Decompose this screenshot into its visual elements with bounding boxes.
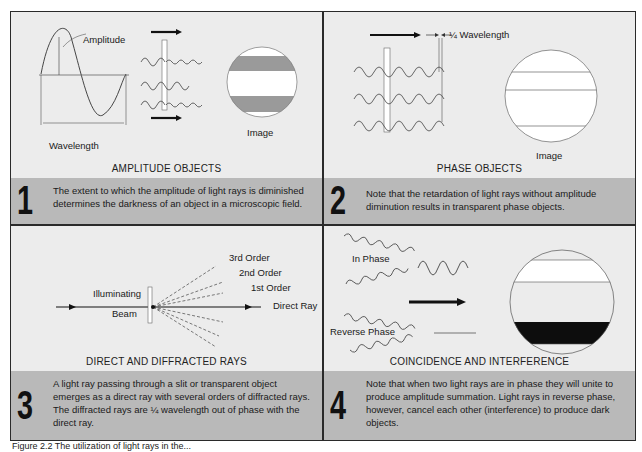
description-band: 1 The extent to which the amplitude of l… (11, 178, 322, 224)
panel-title: PHASE OBJECTS (324, 163, 635, 174)
description-band: 2 Note that the retardation of light ray… (324, 178, 635, 224)
panel-amplitude-objects: Amplitude Wavelength Image AMPLITUDE OBJ… (11, 12, 322, 224)
wavelength-label: Wavelength (49, 140, 99, 151)
reverse-phase-label: Reverse Phase (330, 326, 395, 337)
description-band: 3 A light ray passing through a slit or … (11, 371, 322, 440)
illuminating-label: Illuminating (93, 288, 141, 299)
panel-description: The extent to which the amplitude of lig… (53, 184, 314, 210)
figure-caption: Figure 2.2 The utilization of light rays… (12, 441, 191, 451)
description-band: 4 Note that when two light rays are in p… (324, 371, 635, 440)
panel-direct-diffracted-rays: 3rd Order 2nd Order 1st Order Direct Ray… (11, 226, 322, 440)
direct-ray-label: Direct Ray (273, 300, 317, 311)
image-label: Image (247, 127, 273, 138)
panel-title: AMPLITUDE OBJECTS (11, 163, 322, 174)
beam-label: Beam (112, 308, 137, 319)
panel-description: Note that the retardation of light rays … (366, 187, 627, 213)
panel-title: DIRECT AND DIFFRACTED RAYS (11, 356, 322, 367)
first-order-label: 1st Order (251, 282, 291, 293)
figure-frame: Amplitude Wavelength Image AMPLITUDE OBJ… (10, 11, 636, 441)
quarter-wavelength-label: ¼ Wavelength (449, 29, 509, 40)
third-order-label: 3rd Order (229, 252, 270, 263)
panel-number: 1 (17, 178, 33, 223)
panel-number: 2 (330, 178, 346, 223)
in-phase-label: In Phase (352, 253, 390, 264)
image-label: Image (536, 150, 562, 161)
panel-description: A light ray passing through a slit or tr… (53, 377, 314, 429)
panel-title: COINCIDENCE AND INTERFERENCE (324, 356, 635, 367)
panel-description: Note that when two light rays are in pha… (366, 377, 627, 429)
amplitude-label: Amplitude (83, 34, 125, 45)
panel-number: 3 (17, 383, 33, 428)
panel-phase-objects: ¼ Wavelength Image PHASE OBJECTS 2 Note … (324, 12, 635, 224)
panel-coincidence-interference: In Phase Reverse Phase COINCIDENCE AND I… (324, 226, 635, 440)
second-order-label: 2nd Order (239, 267, 282, 278)
panel-number: 4 (330, 383, 346, 428)
